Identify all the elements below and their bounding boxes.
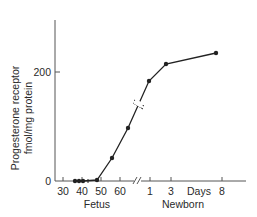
- x-unit-label: Days: [187, 185, 211, 197]
- y-tick-label-0: 0: [45, 175, 51, 187]
- data-point: [214, 51, 218, 55]
- x-tick-label-50: 50: [95, 185, 107, 197]
- y-axis-label-line2: fmol/mg protein: [22, 82, 34, 155]
- data-points: [73, 51, 218, 183]
- x-group-label-newborn: Newborn: [162, 198, 204, 210]
- y-axis-label: Progesterone receptor fmol/mg protein: [9, 65, 34, 170]
- data-point: [73, 179, 77, 183]
- data-point: [81, 179, 85, 183]
- x-tick-label-40: 40: [76, 185, 88, 197]
- x-tick-label-30: 30: [57, 185, 69, 197]
- x-tick-label-3: 3: [168, 185, 174, 197]
- data-point: [126, 126, 130, 130]
- data-point: [110, 156, 114, 160]
- data-line: [75, 53, 216, 181]
- x-axis-break-icon: [133, 177, 141, 184]
- data-point: [164, 62, 168, 66]
- x-tick-label-1: 1: [147, 185, 153, 197]
- data-point: [147, 79, 151, 83]
- x-group-label-fetus: Fetus: [84, 198, 110, 210]
- x-tick-label-8: 8: [219, 185, 225, 197]
- data-point: [77, 179, 81, 183]
- y-axis-label-line1: Progesterone receptor: [9, 65, 21, 170]
- data-point: [95, 178, 99, 182]
- y-tick-label-200: 200: [33, 66, 51, 78]
- chart-canvas: Progesterone receptor fmol/mg protein 20…: [0, 0, 257, 217]
- x-tick-label-60: 60: [114, 185, 126, 197]
